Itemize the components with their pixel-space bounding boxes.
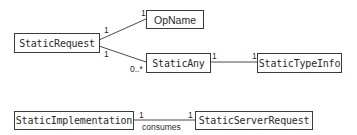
mult-request-staticany-from: 1: [104, 50, 109, 59]
uml-diagram: StaticRequest OpName StaticAny StaticTyp…: [0, 0, 357, 135]
mult-request-staticany-to: 0..*: [130, 65, 143, 74]
class-static-any: StaticAny: [146, 53, 211, 73]
class-static-implementation: StaticImplementation: [14, 111, 134, 130]
mult-staticany-typeinfo-to: 1: [252, 52, 257, 61]
class-op-name: OpName: [146, 10, 204, 29]
class-static-server-request: StaticServerRequest: [195, 111, 313, 130]
mult-impl-serverrequest-to: 1: [188, 111, 193, 120]
mult-request-opname-from: 1: [104, 26, 109, 35]
class-static-type-info: StaticTypeInfo: [257, 53, 342, 73]
mult-staticany-typeinfo-from: 1: [212, 52, 217, 61]
assoc-label-consumes: consumes: [142, 123, 181, 132]
mult-impl-serverrequest-from: 1: [139, 111, 144, 120]
class-static-request: StaticRequest: [14, 33, 100, 53]
mult-request-opname-to: 1: [141, 9, 146, 18]
